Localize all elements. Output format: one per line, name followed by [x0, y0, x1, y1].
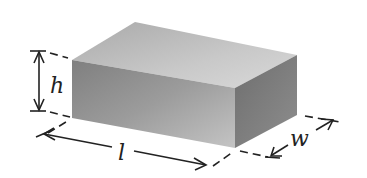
length-label: l [118, 140, 125, 165]
box-diagram: h l w [0, 0, 367, 178]
width-label: w [290, 126, 309, 151]
height-label: h [50, 73, 64, 98]
